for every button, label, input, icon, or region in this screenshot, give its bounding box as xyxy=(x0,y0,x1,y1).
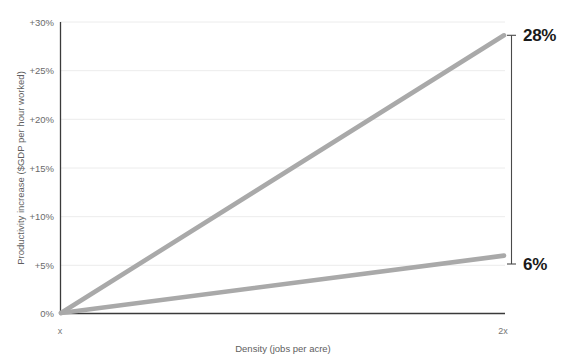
y-tick-20: +20% xyxy=(29,114,54,125)
y-tick-10: +10% xyxy=(29,211,54,222)
y-tick-30: +30% xyxy=(29,17,54,28)
y-tick-15: +15% xyxy=(29,163,54,174)
x-tick-end: 2x xyxy=(498,326,508,336)
x-axis-title: Density (jobs per acre) xyxy=(235,343,331,354)
y-axis-title: Productivity increase ($GDP per hour wor… xyxy=(15,71,26,265)
y-tick-0: 0% xyxy=(40,308,54,319)
value-label-upper: 28% xyxy=(523,26,556,45)
y-tick-5: +5% xyxy=(35,260,55,271)
chart-container: 28% 6% +30% +25% +20% +15% +10% +5% 0% x… xyxy=(0,0,570,363)
productivity-density-line-chart: 28% 6% +30% +25% +20% +15% +10% +5% 0% x… xyxy=(0,0,570,363)
value-label-lower: 6% xyxy=(523,255,547,274)
x-tick-start: x xyxy=(58,326,63,336)
y-tick-25: +25% xyxy=(29,65,54,76)
